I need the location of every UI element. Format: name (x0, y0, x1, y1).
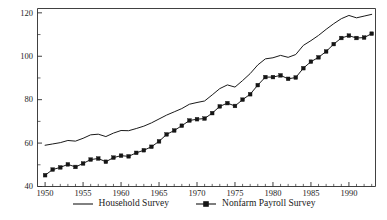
data-point-marker-nonfarm (347, 34, 351, 38)
data-point-marker-nonfarm (248, 92, 252, 96)
x-tick-label: 1980 (258, 189, 288, 198)
data-point-marker-nonfarm (104, 160, 108, 164)
data-point-marker-nonfarm (134, 151, 138, 155)
data-point-marker-nonfarm (51, 168, 55, 172)
x-tick-label: 1985 (296, 189, 326, 198)
series-line-household (45, 14, 372, 145)
data-point-marker-nonfarm (339, 36, 343, 40)
data-point-marker-nonfarm (256, 83, 260, 87)
legend-entry-nonfarm[interactable]: Nonfarm Payroll Survey (195, 199, 315, 209)
data-point-marker-nonfarm (370, 32, 374, 36)
data-point-marker-nonfarm (180, 124, 184, 128)
data-point-marker-nonfarm (112, 156, 116, 160)
data-point-marker-nonfarm (157, 140, 161, 144)
y-tick-label: 120 (2, 9, 33, 18)
plot-canvas (0, 0, 387, 220)
legend-label-household: Household Survey (99, 199, 169, 209)
data-point-marker-nonfarm (241, 98, 245, 102)
data-point-marker-nonfarm (355, 36, 359, 40)
data-point-marker-nonfarm (286, 77, 290, 81)
x-tick-label: 1960 (106, 189, 136, 198)
data-point-marker-nonfarm (119, 154, 123, 158)
y-tick-label: 60 (2, 139, 33, 148)
data-point-marker-nonfarm (317, 55, 321, 59)
data-point-marker-nonfarm (58, 166, 62, 170)
data-point-marker-nonfarm (66, 163, 70, 167)
x-tick-label: 1955 (68, 189, 98, 198)
data-point-marker-nonfarm (210, 111, 214, 115)
data-point-marker-nonfarm (264, 75, 268, 79)
axes (38, 9, 376, 187)
data-point-marker-nonfarm (43, 173, 47, 177)
data-point-marker-nonfarm (226, 101, 230, 105)
x-tick-label: 1965 (144, 189, 174, 198)
data-point-marker-nonfarm (188, 119, 192, 123)
data-point-marker-nonfarm (165, 133, 169, 137)
data-point-marker-nonfarm (279, 74, 283, 78)
legend-label-nonfarm: Nonfarm Payroll Survey (222, 199, 315, 209)
data-point-marker-nonfarm (294, 76, 298, 80)
employment-chart-figure: 406080100120 195019551960196519701975198… (0, 0, 387, 220)
data-point-marker-nonfarm (172, 129, 176, 133)
data-point-marker-nonfarm (301, 66, 305, 70)
chart-legend: Household Survey Nonfarm Payroll Survey (0, 199, 387, 209)
x-tick-label: 1950 (30, 189, 60, 198)
data-series (43, 14, 373, 177)
series-line-nonfarm (45, 34, 372, 176)
data-point-marker-nonfarm (89, 158, 93, 162)
data-point-marker-nonfarm (150, 145, 154, 149)
legend-line-marker-swatch-nonfarm (195, 199, 217, 209)
data-point-marker-nonfarm (203, 117, 207, 121)
axis-ticks (38, 13, 372, 187)
data-point-marker-nonfarm (271, 75, 275, 79)
legend-entry-household[interactable]: Household Survey (72, 199, 169, 209)
data-point-marker-nonfarm (127, 154, 131, 158)
data-point-marker-nonfarm (324, 50, 328, 54)
data-point-marker-nonfarm (309, 60, 313, 64)
data-point-marker-nonfarm (96, 157, 100, 161)
data-point-marker-nonfarm (218, 105, 222, 109)
x-tick-label: 1975 (220, 189, 250, 198)
y-tick-label: 40 (2, 182, 33, 191)
y-tick-label: 80 (2, 95, 33, 104)
data-point-marker-nonfarm (233, 104, 237, 108)
data-point-marker-nonfarm (195, 117, 199, 121)
data-point-marker-nonfarm (74, 165, 78, 169)
x-tick-label: 1970 (182, 189, 212, 198)
data-point-marker-nonfarm (332, 42, 336, 46)
data-point-marker-nonfarm (142, 148, 146, 152)
y-tick-label: 100 (2, 52, 33, 61)
x-tick-label: 1990 (334, 189, 364, 198)
axis-frame (38, 9, 376, 187)
data-point-marker-nonfarm (81, 162, 85, 166)
data-point-marker-nonfarm (362, 36, 366, 40)
legend-line-swatch-household (72, 199, 94, 209)
